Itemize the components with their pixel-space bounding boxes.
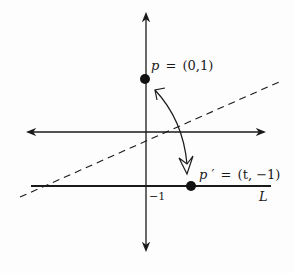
label-line-L: L <box>258 189 268 204</box>
point-p <box>140 74 150 84</box>
label-p-prime-equals: = <box>221 167 232 182</box>
label-p-name: p <box>151 58 160 73</box>
label-p-coords: (0,1) <box>183 58 214 73</box>
point-p-prime <box>186 181 196 191</box>
reflection-diagram: p = (0,1) p ′ = (t, −1) −1 L <box>0 0 295 273</box>
curved-arrow-head-top <box>155 88 165 100</box>
diagram-svg: p = (0,1) p ′ = (t, −1) −1 L <box>0 0 295 273</box>
tick-label-minus-one: −1 <box>149 190 165 203</box>
label-p: p = (0,1) <box>151 58 213 73</box>
label-p-prime-coords: (t, −1) <box>238 167 281 182</box>
label-p-prime-mark: ′ <box>211 167 214 182</box>
label-p-prime: p ′ = (t, −1) <box>199 167 280 182</box>
label-p-prime-name: p <box>199 167 208 182</box>
curved-arrow <box>155 90 187 164</box>
label-p-equals: = <box>165 58 176 73</box>
